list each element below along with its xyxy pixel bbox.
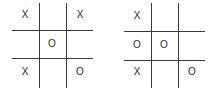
grid-line: [124, 60, 205, 61]
cell-2-1[interactable]: [154, 65, 174, 79]
cell-1-2[interactable]: [182, 38, 202, 52]
cell-2-2[interactable]: O: [182, 65, 202, 79]
cell-0-0[interactable]: X: [127, 9, 147, 23]
grid-line: [124, 31, 205, 32]
cell-0-2[interactable]: [182, 9, 202, 23]
grid-line: [151, 3, 152, 88]
grid-line: [178, 3, 179, 88]
cell-1-0[interactable]: O: [127, 38, 147, 52]
cell-0-1[interactable]: [154, 9, 174, 23]
cell-2-0[interactable]: X: [127, 65, 147, 79]
tic-tac-toe-board-right: X O O X O: [0, 0, 212, 92]
cell-1-1[interactable]: O: [154, 38, 174, 52]
